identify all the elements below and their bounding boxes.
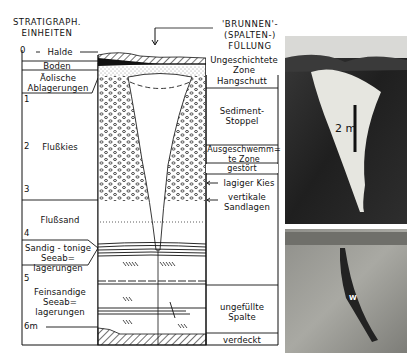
depth-tick-6m: 6m xyxy=(24,321,38,331)
unit-ungefuellte-spalte: ungefüllte Spalte xyxy=(206,302,278,322)
unit-lagiger-kies: lagiger Kies xyxy=(220,178,278,188)
unit-flusssand: Flußsand xyxy=(22,215,98,225)
unit-sediment-stoppel-line1: Sediment- xyxy=(206,106,278,116)
unit-ungeschichtete-line1: Ungeschichtete xyxy=(206,55,282,65)
left-header: STRATIGRAPH. EINHEITEN xyxy=(4,17,90,39)
unit-ungeschichtete-line2: Zone xyxy=(206,65,282,75)
unit-aeolisch-line1: Äolische xyxy=(22,73,94,83)
unit-ungeschichtete-zone: Ungeschichtete Zone xyxy=(206,55,282,75)
unit-verdeckt: verdeckt xyxy=(206,335,278,345)
left-header-line2: EINHEITEN xyxy=(4,28,90,39)
unit-gestoert: gestört xyxy=(206,164,278,173)
unit-ausgeschwemmte-zone: Ausgeschwemm= te Zone xyxy=(206,145,282,165)
depth-tick-4: 4 xyxy=(24,228,29,238)
depth-tick-3: 3 xyxy=(24,184,29,194)
top-header-line1: 'BRUNNEN'- xyxy=(214,19,286,30)
depth-tick-5: 5 xyxy=(24,273,29,283)
top-header-line3: FÜLLUNG xyxy=(214,41,286,52)
unit-vertikale-sandlagen: vertikale Sandlagen xyxy=(216,192,278,212)
unit-boden: Boden xyxy=(22,61,92,71)
unit-sandig-tonige-line1: Sandig - tonige xyxy=(22,243,94,253)
unit-sandig-tonige-line3: lagerungen xyxy=(22,263,94,273)
unit-feinsandige-line3: lagerungen xyxy=(22,307,98,317)
bottom-photo xyxy=(285,229,407,353)
unit-sandig-tonige-line2: Seeab= xyxy=(22,253,94,263)
depth-tick-1: 1 xyxy=(24,94,29,104)
unit-halde: Halde xyxy=(40,47,80,57)
scale-label: 2 m xyxy=(335,122,356,135)
left-header-line1: STRATIGRAPH. xyxy=(4,17,90,28)
unit-vertikale-line2: Sandlagen xyxy=(216,202,278,212)
unit-sediment-stoppel-line2: Stoppel xyxy=(206,116,278,126)
central-section xyxy=(98,28,213,345)
unit-vertikale-line1: vertikale xyxy=(216,192,278,202)
top-header: 'BRUNNEN'- (SPALTEN-) FÜLLUNG xyxy=(214,19,286,52)
unit-aeolisch-line2: Ablagerungen xyxy=(22,83,94,93)
marker-w-label: W xyxy=(349,294,357,302)
unit-flusskies: Flußkies xyxy=(22,142,98,152)
unit-feinsandige-line2: Seeab= xyxy=(22,297,98,307)
top-header-line2: (SPALTEN-) xyxy=(214,30,286,41)
unit-hangschutt: Hangschutt xyxy=(206,76,278,86)
unit-ungefuellte-line1: ungefüllte xyxy=(206,302,278,312)
unit-sandig-tonige: Sandig - tonige Seeab= lagerungen xyxy=(22,243,94,273)
unit-ungefuellte-line2: Spalte xyxy=(206,312,278,322)
unit-sediment-stoppel: Sediment- Stoppel xyxy=(206,106,278,126)
unit-feinsandige-line1: Feinsandige xyxy=(22,287,98,297)
unit-feinsandige: Feinsandige Seeab= lagerungen xyxy=(22,287,98,317)
unit-ausgeschwemmte-line1: Ausgeschwemm= xyxy=(206,145,282,155)
depth-tick-0: 0 xyxy=(20,45,25,55)
unit-aeolisch: Äolische Ablagerungen xyxy=(22,73,94,93)
